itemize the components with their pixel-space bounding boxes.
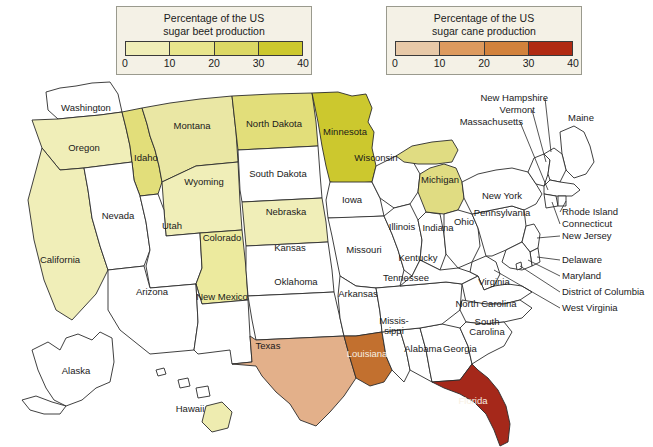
legend-cane-colorbar — [395, 41, 573, 56]
legend-cane-swatch-3 — [529, 42, 572, 55]
legend-beet-title-line1: Percentage of the US — [125, 12, 303, 25]
state-minnesota[interactable] — [312, 92, 376, 184]
legend-cane-swatch-2 — [485, 42, 529, 55]
state-rhode-island[interactable] — [558, 196, 566, 206]
legend-beet-tick-0: 0 — [122, 57, 128, 69]
state-alaska[interactable] — [32, 332, 114, 406]
state-north-dakota[interactable] — [232, 93, 318, 150]
map-figure: Percentage of the US sugar beet producti… — [0, 0, 653, 447]
legend-beet-title-line2: sugar beet production — [125, 25, 303, 38]
state-oklahoma[interactable] — [248, 292, 344, 340]
state-colorado[interactable] — [196, 230, 248, 304]
state-north-carolina[interactable] — [460, 300, 532, 324]
legend-cane-title-line1: Percentage of the US — [395, 12, 573, 25]
legend-cane-tick-20: 20 — [478, 57, 490, 69]
legend-sugar-beet: Percentage of the US sugar beet producti… — [116, 6, 312, 75]
state-michigan[interactable] — [418, 164, 464, 214]
legend-beet-swatch-0 — [126, 42, 170, 55]
state-michigan-upper-peninsula[interactable] — [396, 140, 458, 164]
state-hawaii-kauai[interactable] — [156, 368, 166, 376]
legend-cane-tick-30: 30 — [523, 57, 535, 69]
legend-cane-swatch-1 — [440, 42, 484, 55]
legend-beet-title: Percentage of the US sugar beet producti… — [125, 12, 303, 37]
state-hawaii-maui[interactable] — [196, 386, 210, 398]
state-tennessee[interactable] — [376, 282, 462, 332]
state-massachusetts[interactable] — [544, 180, 580, 196]
state-kansas[interactable] — [246, 242, 334, 296]
state-texas[interactable] — [232, 336, 356, 426]
legend-sugar-cane: Percentage of the US sugar cane producti… — [386, 6, 582, 75]
state-hawaii-oahu[interactable] — [178, 378, 190, 388]
legend-cane-title: Percentage of the US sugar cane producti… — [395, 12, 573, 37]
state-south-dakota[interactable] — [238, 146, 322, 202]
state-nebraska[interactable] — [242, 198, 328, 246]
legend-cane-tick-40: 40 — [567, 57, 579, 69]
state-hawaii-big-island[interactable] — [202, 402, 232, 432]
state-connecticut[interactable] — [544, 194, 558, 208]
legend-beet-tick-30: 30 — [253, 57, 265, 69]
legend-cane-title-line2: sugar cane production — [395, 25, 573, 38]
legend-beet-swatch-1 — [170, 42, 214, 55]
legend-cane-tick-0: 0 — [392, 57, 398, 69]
legend-beet-swatch-3 — [259, 42, 302, 55]
legend-cane-swatch-0 — [396, 42, 440, 55]
legend-beet-swatch-2 — [215, 42, 259, 55]
legend-beet-ticks: 010203040 — [125, 57, 303, 71]
legend-beet-tick-40: 40 — [297, 57, 309, 69]
legend-cane-tick-10: 10 — [434, 57, 446, 69]
legend-beet-colorbar — [125, 41, 303, 56]
legend-beet-tick-10: 10 — [164, 57, 176, 69]
state-district-of-columbia[interactable] — [516, 262, 522, 270]
legend-cane-ticks: 010203040 — [395, 57, 573, 71]
legend-beet-tick-20: 20 — [208, 57, 220, 69]
us-choropleth-map: Washington Oregon Idaho Montana North Da… — [0, 70, 653, 447]
